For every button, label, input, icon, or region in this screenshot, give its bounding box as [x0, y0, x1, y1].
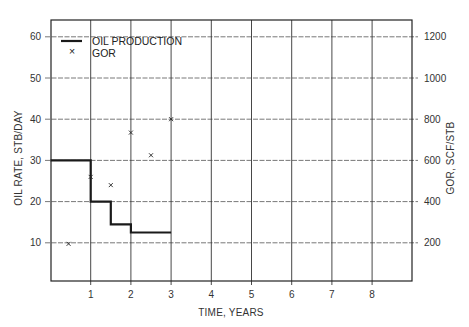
legend-x-marker: × [69, 45, 75, 57]
y-tick-label: 10 [30, 237, 42, 248]
x-tick-label: 4 [209, 289, 215, 300]
x-tick-label: 7 [329, 289, 335, 300]
x-axis-label: TIME, YEARS [198, 307, 263, 318]
y2-axis-label: GOR, SCF/STB [445, 121, 456, 194]
y-tick-label: 60 [30, 31, 42, 42]
y-tick-label: 20 [30, 196, 42, 207]
y-axis-label: OIL RATE, STB/DAY [13, 110, 24, 206]
y-tick-label: 30 [30, 155, 42, 166]
y2-tick-label: 200 [424, 237, 441, 248]
x-tick-label: 2 [128, 289, 134, 300]
x-tick-label: 3 [168, 289, 174, 300]
y2-tick-label: 1000 [424, 73, 447, 84]
data-series [51, 117, 174, 246]
y2-tick-label: 600 [424, 155, 441, 166]
legend: × OIL PRODUCTION GOR [61, 35, 182, 59]
y-tick-label: 40 [30, 114, 42, 125]
plot-frame [51, 20, 412, 281]
gor-marker [149, 153, 153, 157]
x-tick-label: 6 [289, 289, 295, 300]
y2-tick-label: 1200 [424, 31, 447, 42]
x-tick-label: 1 [88, 289, 94, 300]
chart: 102030405060 20040060080010001200 123456… [0, 0, 469, 327]
y-tick-label: 50 [30, 73, 42, 84]
x-tick-label: 5 [249, 289, 255, 300]
gor-marker [109, 183, 113, 187]
frame-rect [51, 20, 412, 281]
y2-tick-label: 400 [424, 196, 441, 207]
oil-production-line [51, 160, 172, 232]
x-axis-ticks: 12345678 [88, 289, 375, 300]
legend-label-gor: GOR [92, 47, 116, 59]
x-tick-label: 8 [369, 289, 375, 300]
grid-lines [45, 20, 418, 285]
legend-label-oil: OIL PRODUCTION [92, 35, 182, 47]
y-axis-ticks: 102030405060 [30, 31, 42, 248]
y2-axis-ticks: 20040060080010001200 [424, 31, 447, 248]
y2-tick-label: 800 [424, 114, 441, 125]
